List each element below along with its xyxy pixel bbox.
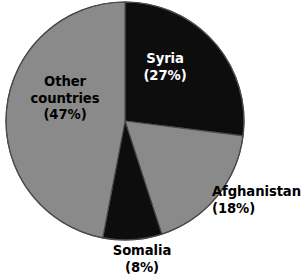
- slice-label-other-countries-name-line2: countries: [16, 91, 114, 108]
- pie-chart: Syria (27%) Other countries (47%) Afghan…: [0, 0, 306, 274]
- slice-label-afghanistan-name: Afghanistan: [212, 184, 306, 201]
- slice-label-somalia-name: Somalia: [86, 243, 198, 260]
- slice-label-somalia-value: (8%): [86, 260, 198, 274]
- slice-label-syria-name: Syria: [122, 51, 208, 68]
- slice-label-somalia: Somalia (8%): [86, 243, 198, 274]
- slice-label-syria-value: (27%): [122, 68, 208, 85]
- slice-label-other-countries: Other countries (47%): [16, 74, 114, 124]
- slice-label-afghanistan-value: (18%): [212, 201, 306, 218]
- slice-label-afghanistan: Afghanistan (18%): [212, 184, 306, 217]
- pie-chart-canvas: [0, 0, 306, 274]
- slice-label-syria: Syria (27%): [122, 51, 208, 84]
- slice-label-other-countries-name-line1: Other: [16, 74, 114, 91]
- slice-label-other-countries-value: (47%): [16, 107, 114, 124]
